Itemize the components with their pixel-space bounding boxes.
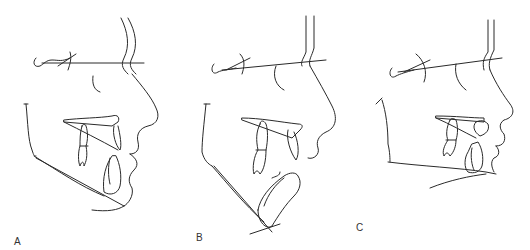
panel-b: B bbox=[180, 0, 360, 250]
cephalometric-figure: A bbox=[0, 0, 530, 250]
tracing-b bbox=[180, 0, 360, 250]
panel-label-a: A bbox=[14, 236, 21, 247]
panel-label-c: C bbox=[356, 222, 363, 233]
panel-c: C bbox=[360, 0, 530, 250]
tracing-a bbox=[0, 0, 180, 250]
tracing-c bbox=[360, 0, 530, 250]
panel-a: A bbox=[0, 0, 180, 250]
panel-label-b: B bbox=[196, 232, 203, 243]
